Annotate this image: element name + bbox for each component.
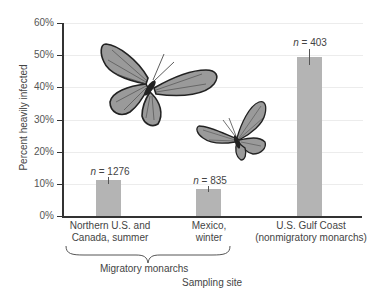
sample-size-label: n = 835 bbox=[188, 175, 232, 186]
category-label-gulf-coast: U.S. Gulf Coast (nonmigratory monarchs) bbox=[252, 220, 370, 244]
error-bar bbox=[208, 186, 209, 192]
category-label-northern: Northern U.S. and Canada, summer bbox=[58, 220, 162, 244]
sample-size-label: n = 403 bbox=[286, 37, 334, 48]
category-line: winter bbox=[178, 232, 240, 244]
sample-size-label: n = 1276 bbox=[88, 166, 132, 177]
ytick-label: 20% bbox=[20, 146, 54, 157]
bar-us-gulf-coast bbox=[297, 57, 322, 216]
monarch-butterfly-small-icon bbox=[195, 98, 275, 163]
bar-northern-us-canada bbox=[96, 180, 121, 216]
x-axis bbox=[62, 216, 362, 218]
error-bar bbox=[309, 49, 310, 65]
x-axis-label: Sampling site bbox=[182, 277, 242, 288]
sample-size-value: 403 bbox=[310, 37, 327, 48]
category-line: Northern U.S. and bbox=[58, 220, 162, 232]
ytick-label: 30% bbox=[20, 114, 54, 125]
group-brace bbox=[64, 244, 232, 264]
category-line: (nonmigratory monarchs) bbox=[252, 232, 370, 244]
equals: = bbox=[299, 37, 310, 48]
sample-size-value: 1276 bbox=[107, 166, 129, 177]
gridline-60 bbox=[63, 23, 363, 24]
category-label-mexico: Mexico, winter bbox=[178, 220, 240, 244]
y-axis bbox=[62, 23, 64, 217]
category-line: Canada, summer bbox=[58, 232, 162, 244]
ytick-label: 50% bbox=[20, 49, 54, 60]
group-label-migratory: Migratory monarchs bbox=[100, 263, 188, 274]
bar-mexico-winter bbox=[196, 189, 221, 216]
error-bar bbox=[108, 177, 109, 184]
sample-size-value: 835 bbox=[210, 175, 227, 186]
ytick-label: 60% bbox=[20, 17, 54, 28]
equals: = bbox=[199, 175, 210, 186]
equals: = bbox=[96, 166, 107, 177]
category-line: Mexico, bbox=[178, 220, 240, 232]
ytick-label: 10% bbox=[20, 178, 54, 189]
category-line: U.S. Gulf Coast bbox=[252, 220, 370, 232]
ytick-label: 0% bbox=[20, 210, 54, 221]
ytick-label: 40% bbox=[20, 81, 54, 92]
